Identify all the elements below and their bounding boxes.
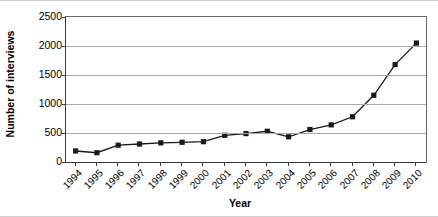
x-axis-tick-mark: [160, 162, 161, 166]
y-axis-title-text: Number of interviews: [4, 30, 16, 137]
x-axis-tick-mark: [181, 162, 182, 166]
x-axis-tick-mark: [202, 162, 203, 166]
gridline: [66, 46, 426, 47]
y-axis-tick-label: 500: [22, 127, 62, 137]
data-point-marker: [201, 139, 206, 144]
x-axis-tick-mark: [330, 162, 331, 166]
y-axis-tick-label: 0: [22, 156, 62, 166]
data-series-line: [66, 17, 426, 162]
x-axis-tick-mark: [373, 162, 374, 166]
y-axis-tick-label: 2500: [22, 11, 62, 21]
data-point-marker: [116, 143, 121, 148]
x-axis-title: Year: [0, 197, 438, 209]
y-axis-tick-mark: [62, 46, 66, 47]
x-axis-tick-mark: [288, 162, 289, 166]
y-axis-tick-mark: [62, 75, 66, 76]
y-axis-tick-label: 1500: [22, 69, 62, 79]
y-axis-title: Number of interviews: [0, 1, 20, 166]
data-point-marker: [73, 148, 78, 153]
x-axis-tick-mark: [394, 162, 395, 166]
y-axis-tick-mark: [62, 17, 66, 18]
x-axis-tick-mark: [352, 162, 353, 166]
x-axis-tick-mark: [309, 162, 310, 166]
x-axis-tick-mark: [117, 162, 118, 166]
y-axis-tick-labels: 05001000150020002500: [18, 1, 62, 217]
data-point-marker: [307, 127, 312, 132]
gridline: [66, 75, 426, 76]
x-axis-tick-mark: [245, 162, 246, 166]
x-axis-tick-mark: [138, 162, 139, 166]
x-axis-title-text: Year: [229, 197, 251, 209]
data-point-marker: [94, 150, 99, 155]
data-point-marker: [158, 140, 163, 145]
data-point-marker: [414, 41, 419, 46]
data-point-marker: [371, 93, 376, 98]
plot-area: [65, 16, 427, 163]
gridline: [66, 104, 426, 105]
gridline: [66, 133, 426, 134]
chart-figure: Number of interviews 0500100015002000250…: [0, 0, 438, 217]
x-axis-tick-mark: [96, 162, 97, 166]
y-axis-tick-mark: [62, 133, 66, 134]
y-axis-tick-label: 2000: [22, 40, 62, 50]
x-axis-tick-mark: [75, 162, 76, 166]
x-axis-tick-mark: [266, 162, 267, 166]
x-axis-tick-mark: [224, 162, 225, 166]
data-point-marker: [329, 122, 334, 127]
series-line: [76, 43, 417, 153]
y-axis-tick-mark: [62, 104, 66, 105]
data-point-marker: [286, 134, 291, 139]
y-axis-tick-label: 1000: [22, 98, 62, 108]
x-axis-ticks: 1994199519961997199819992000200120022003…: [65, 162, 427, 192]
data-point-marker: [179, 140, 184, 145]
data-point-marker: [137, 141, 142, 146]
data-point-marker: [393, 62, 398, 67]
x-axis-tick-mark: [415, 162, 416, 166]
data-point-marker: [350, 114, 355, 119]
